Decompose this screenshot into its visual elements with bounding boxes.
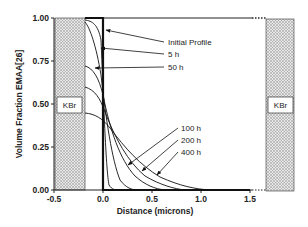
label-5h: 5 h (168, 50, 179, 59)
annotation-arrows (95, 30, 178, 175)
y-axis-title: Volume Fraction EMAA[26] (14, 50, 24, 159)
y-tick-label: 0.25 (32, 142, 49, 152)
y-tick-label: 0.75 (32, 56, 49, 66)
label-50h: 50 h (168, 63, 184, 72)
y-axis: 1.00 0.75 0.50 0.25 0.00 Volume Fraction… (14, 13, 54, 195)
x-tick-label: -0.5 (47, 194, 62, 204)
kbr-label-right: KBr (274, 101, 288, 110)
y-tick-label: 1.00 (32, 13, 49, 23)
x-tick-label: 1.0 (195, 194, 207, 204)
diffusion-profile-chart: KBr KBr 1.00 0.75 0.50 0.25 0.00 Volume … (0, 0, 308, 227)
curve-200h (85, 87, 185, 190)
label-initial-profile: Initial Profile (168, 38, 212, 47)
x-tick-label: 0.5 (146, 194, 158, 204)
x-axis-title: Distance (microns) (117, 206, 194, 216)
curve-100h (85, 66, 165, 190)
x-tick-label: 1.5 (244, 194, 256, 204)
y-tick-label: 0.50 (32, 99, 49, 109)
kbr-region-right: KBr (266, 19, 294, 191)
x-axis: -0.5 0.0 0.5 1.0 1.5 Distance (microns) (47, 190, 266, 216)
label-400h: 400 h (181, 148, 201, 157)
kbr-region-left: KBr (55, 18, 85, 190)
x-tick-label: 0.0 (97, 194, 109, 204)
curve-5h (85, 20, 118, 190)
kbr-label-left: KBr (63, 101, 77, 110)
curve-50h (85, 22, 138, 190)
label-100h: 100 h (181, 124, 201, 133)
label-200h: 200 h (181, 136, 201, 145)
